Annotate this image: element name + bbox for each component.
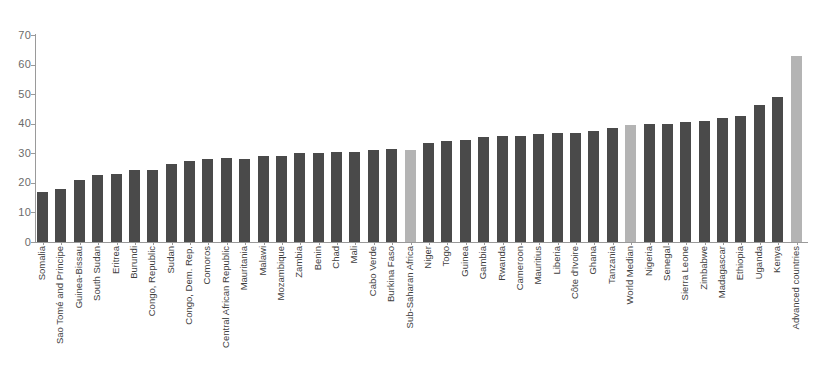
x-label-slot: Advanced countries xyxy=(790,244,808,375)
bar-slot xyxy=(440,35,458,242)
x-tick-mark xyxy=(153,242,154,245)
y-tick-mark xyxy=(31,124,35,125)
x-label-slot: Chad xyxy=(330,244,348,375)
bar-slot xyxy=(661,35,679,242)
y-tick-label: 70 xyxy=(18,30,31,41)
x-tick-mark xyxy=(686,242,687,245)
bar[interactable] xyxy=(184,161,195,242)
x-tick-mark xyxy=(355,242,356,245)
bar[interactable] xyxy=(221,158,232,242)
bar[interactable] xyxy=(111,174,122,242)
x-tick-label: Togo xyxy=(442,246,452,267)
x-label-slot: Guinea xyxy=(459,244,477,375)
bar[interactable] xyxy=(349,152,360,242)
bar[interactable] xyxy=(313,153,324,242)
x-tick-mark xyxy=(98,242,99,245)
bar[interactable] xyxy=(202,159,213,242)
bar-slot xyxy=(624,35,642,242)
bar[interactable] xyxy=(699,121,710,242)
x-tick-label: Liberia xyxy=(552,246,562,275)
bar[interactable] xyxy=(478,137,489,242)
bar[interactable] xyxy=(37,192,48,242)
x-tick-label: Guinea xyxy=(460,246,470,277)
x-tick-label: Somalia xyxy=(37,246,47,280)
x-label-slot: Benin xyxy=(312,244,330,375)
y-tick-mark xyxy=(31,153,35,154)
bar[interactable] xyxy=(386,149,397,242)
x-tick-label: Benin xyxy=(313,246,323,270)
bar-slot xyxy=(477,35,495,242)
bar[interactable] xyxy=(258,156,269,242)
x-label-slot: Mauritania xyxy=(238,244,256,375)
bar[interactable] xyxy=(441,141,452,242)
bar[interactable] xyxy=(772,97,783,242)
x-tick-mark xyxy=(43,242,44,245)
x-tick-label: Cabo Verde xyxy=(368,246,378,296)
bar[interactable] xyxy=(423,143,434,242)
x-label-slot: Rwanda xyxy=(496,244,514,375)
y-tick-label: 40 xyxy=(18,118,31,129)
x-label-slot: Central African Republic xyxy=(220,244,238,375)
x-tick-label: Comoros xyxy=(203,246,213,285)
bar[interactable] xyxy=(239,159,250,242)
x-label-slot: Ghana xyxy=(587,244,605,375)
bar[interactable] xyxy=(147,170,158,242)
bar[interactable] xyxy=(607,128,618,242)
x-label-slot: Gambia xyxy=(477,244,495,375)
y-axis-tick-labels: 010203040506070 xyxy=(0,0,36,260)
bar[interactable] xyxy=(552,133,563,242)
bar[interactable] xyxy=(55,189,66,242)
bar[interactable] xyxy=(497,136,508,242)
bar[interactable] xyxy=(625,125,636,242)
bar[interactable] xyxy=(405,150,416,242)
x-label-slot: World Median xyxy=(624,244,642,375)
bar[interactable] xyxy=(588,131,599,242)
bar[interactable] xyxy=(294,153,305,242)
x-label-slot: Burkina Faso xyxy=(385,244,403,375)
x-label-slot: Sudan xyxy=(165,244,183,375)
bar[interactable] xyxy=(515,136,526,242)
bar[interactable] xyxy=(662,124,673,242)
x-label-slot: Tanzania xyxy=(606,244,624,375)
x-tick-label: Kenya xyxy=(772,246,782,273)
bar[interactable] xyxy=(92,175,103,242)
x-tick-label: Ethiopia xyxy=(736,246,746,280)
x-tick-mark xyxy=(374,242,375,245)
bar[interactable] xyxy=(276,156,287,242)
x-tick-mark xyxy=(135,242,136,245)
x-label-slot: Zimbabwe xyxy=(698,244,716,375)
bar[interactable] xyxy=(754,105,765,243)
bar-slot xyxy=(312,35,330,242)
x-label-slot: Kenya xyxy=(771,244,789,375)
bar[interactable] xyxy=(791,56,802,242)
bar-slot xyxy=(165,35,183,242)
x-tick-mark xyxy=(484,242,485,245)
bar-slot xyxy=(790,35,808,242)
x-label-slot: Malawi xyxy=(257,244,275,375)
x-tick-mark xyxy=(631,242,632,245)
bar[interactable] xyxy=(644,124,655,242)
bar[interactable] xyxy=(129,170,140,242)
bar[interactable] xyxy=(74,180,85,242)
x-tick-mark xyxy=(264,242,265,245)
bar[interactable] xyxy=(717,118,728,242)
bar[interactable] xyxy=(735,116,746,242)
bar-slot xyxy=(257,35,275,242)
bar[interactable] xyxy=(460,140,471,242)
bar[interactable] xyxy=(331,152,342,242)
bar[interactable] xyxy=(368,150,379,242)
bar[interactable] xyxy=(570,133,581,242)
x-label-slot: Sao Tomé and Principe xyxy=(54,244,72,375)
bar-slot xyxy=(587,35,605,242)
bar-slot xyxy=(146,35,164,242)
x-tick-label: Senegal xyxy=(662,246,672,281)
bar[interactable] xyxy=(680,122,691,242)
x-tick-mark xyxy=(411,242,412,245)
x-label-slot: Côte d'Ivoire xyxy=(569,244,587,375)
bar-slot xyxy=(128,35,146,242)
bar[interactable] xyxy=(533,134,544,242)
bar-slot xyxy=(459,35,477,242)
x-tick-label: Uganda xyxy=(754,246,764,279)
bar-slot xyxy=(110,35,128,242)
bar[interactable] xyxy=(166,164,177,242)
